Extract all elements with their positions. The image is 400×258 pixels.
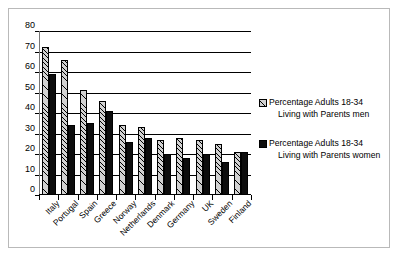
bar-norway-men: [119, 125, 126, 195]
bar-group: [79, 31, 95, 195]
legend-label-men-line2: Living with Parents men: [269, 109, 369, 121]
y-tick-label-30: 30: [25, 123, 35, 132]
bar-denmark-women: [164, 154, 171, 195]
y-tick-label-10: 10: [25, 164, 35, 173]
bar-greece-women: [106, 111, 113, 195]
bar-groups: [39, 31, 251, 195]
bar-group: [118, 31, 134, 195]
bar-italy-women: [49, 74, 56, 195]
y-axis-tick-labels: 01020304050607080: [13, 25, 35, 195]
chart-legend: Percentage Adults 18-34 Living with Pare…: [259, 97, 389, 179]
bar-netherlands-men: [138, 127, 145, 195]
legend-swatch-men-icon: [259, 99, 267, 107]
bar-uk-women: [203, 154, 210, 195]
bar-germany-women: [183, 158, 190, 195]
y-tick-label-20: 20: [25, 144, 35, 153]
legend-item-men: Percentage Adults 18-34 Living with Pare…: [259, 97, 389, 120]
y-tick-label-80: 80: [25, 21, 35, 30]
bar-uk-men: [196, 140, 203, 195]
bar-group: [98, 31, 114, 195]
bar-group: [137, 31, 153, 195]
bar-spain-women: [87, 123, 94, 195]
bar-netherlands-women: [145, 138, 152, 195]
bar-italy-men: [42, 47, 49, 195]
bar-group: [60, 31, 76, 195]
legend-label-women-line1: Percentage Adults 18-34: [269, 138, 363, 148]
legend-swatch-women-icon: [259, 140, 267, 148]
bar-sweden-men: [215, 144, 222, 195]
bar-germany-men: [176, 138, 183, 195]
y-tick-label-40: 40: [25, 103, 35, 112]
x-axis-category-labels: ItalyPortugalSpainGreeceNorwayNetherland…: [39, 199, 279, 247]
bar-group: [156, 31, 172, 195]
bar-sweden-women: [222, 162, 229, 195]
legend-label-women: Percentage Adults 18-34 Living with Pare…: [269, 138, 380, 161]
legend-label-women-line2: Living with Parents women: [269, 150, 380, 162]
bar-denmark-men: [157, 140, 164, 195]
y-tick-label-0: 0: [30, 185, 35, 194]
legend-label-men-line1: Percentage Adults 18-34: [269, 97, 363, 107]
bar-group: [214, 31, 230, 195]
plot-area: 01020304050607080 ItalyPortugalSpainGree…: [9, 9, 257, 249]
legend-label-men: Percentage Adults 18-34 Living with Pare…: [269, 97, 369, 120]
bar-finland-men: [234, 152, 241, 195]
bar-portugal-women: [68, 125, 75, 195]
bar-spain-men: [80, 90, 87, 195]
bar-group: [195, 31, 211, 195]
bar-group: [41, 31, 57, 195]
bar-finland-women: [241, 152, 248, 195]
plot-canvas: [39, 31, 251, 195]
legend-item-women: Percentage Adults 18-34 Living with Pare…: [259, 138, 389, 161]
bar-norway-women: [126, 142, 133, 195]
bar-group: [175, 31, 191, 195]
y-tick-label-70: 70: [25, 41, 35, 50]
bar-group: [233, 31, 249, 195]
bar-greece-men: [99, 101, 106, 195]
y-tick-label-60: 60: [25, 62, 35, 71]
bar-portugal-men: [61, 60, 68, 195]
y-tick-label-50: 50: [25, 82, 35, 91]
chart-figure: 01020304050607080 ItalyPortugalSpainGree…: [8, 8, 390, 248]
